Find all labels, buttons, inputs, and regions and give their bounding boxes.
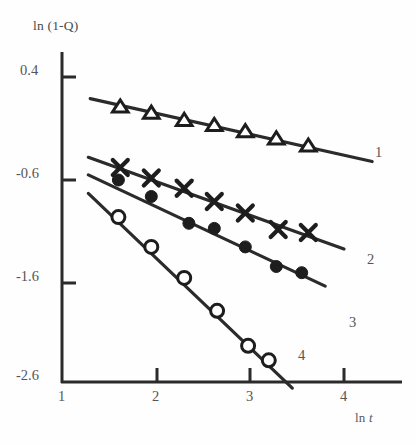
data-point — [183, 217, 195, 229]
series-label-4: 4 — [298, 347, 305, 364]
data-point — [176, 113, 192, 125]
data-point — [145, 240, 158, 253]
x-axis-title-prefix: ln — [355, 410, 369, 425]
x-tick-label-1: 2 — [152, 388, 159, 405]
data-point — [296, 267, 308, 279]
x-axis-title-variable: t — [369, 410, 373, 425]
data-point — [145, 191, 157, 203]
series-1 — [90, 99, 372, 162]
data-point — [242, 339, 255, 352]
series-label-1: 1 — [375, 144, 382, 161]
chart-figure: ln (1-Q) ln t 0.4 -0.6 -1.6 -2.6 1 2 3 4… — [0, 0, 415, 444]
series-fit-line-1 — [90, 99, 372, 162]
data-point — [211, 304, 224, 317]
y-axis-title: ln (1-Q) — [33, 18, 78, 34]
y-axis-ticks — [62, 77, 76, 283]
x-axis-ticks — [157, 368, 344, 382]
series-layer — [88, 99, 372, 389]
series-label-2: 2 — [367, 251, 374, 268]
data-point — [208, 222, 220, 234]
x-axis-title: ln t — [355, 410, 373, 426]
x-tick-label-3: 4 — [340, 388, 347, 405]
data-point — [239, 241, 251, 253]
chart-plot-area — [0, 0, 415, 444]
data-point — [301, 139, 317, 151]
y-tick-label-1: -0.6 — [16, 165, 39, 182]
series-label-3: 3 — [349, 314, 356, 331]
data-point — [207, 118, 223, 130]
data-point — [178, 271, 191, 284]
x-tick-label-0: 1 — [58, 388, 65, 405]
data-point — [144, 106, 160, 118]
data-point — [238, 125, 254, 137]
data-point — [112, 174, 124, 186]
data-point — [112, 211, 125, 224]
data-point — [270, 261, 282, 273]
x-tick-label-2: 3 — [246, 388, 253, 405]
y-tick-label-3: -2.6 — [16, 367, 39, 384]
data-point — [262, 354, 275, 367]
data-point — [269, 132, 285, 144]
data-point — [113, 100, 129, 112]
y-tick-label-0: 0.4 — [20, 62, 38, 79]
y-tick-label-2: -1.6 — [16, 268, 39, 285]
